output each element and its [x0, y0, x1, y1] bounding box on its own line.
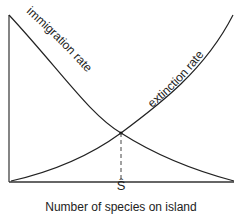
- extinction-curve: [11, 15, 233, 181]
- equilibrium-tick-label: Ŝ: [0, 178, 242, 193]
- extinction-label: extinction rate: [145, 48, 207, 111]
- immigration-label: immigration rate: [24, 4, 95, 75]
- x-axis-label: Number of species on island: [0, 200, 242, 214]
